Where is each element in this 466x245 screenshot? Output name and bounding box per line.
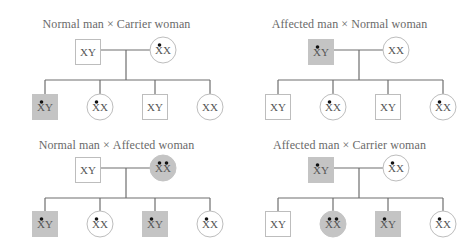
genotype-label: XY [380,218,396,230]
father-male: XY [309,158,334,183]
child-3-male: XY [376,212,401,237]
genotype-label: XX [388,44,404,56]
genotype-label: XY [313,164,329,176]
child-1-male: XY [33,95,58,120]
genotype-label: XY [270,218,286,230]
father-male: XY [76,158,101,183]
pedigree-panel-affected-man-x-normal-woman: Affected man×Normal woman XYXXXYXXXYXX [233,0,466,122]
genotype-label: XX [325,101,341,113]
genotype-label: XX [435,101,451,113]
pedigree-panel-normal-man-x-carrier-woman: Normal man×Carrier woman XYXXXYXXXYXX [0,0,233,122]
mother-female: XX [383,37,409,63]
child-1-male: XY [33,212,58,237]
child-3-male: XY [376,95,401,120]
genotype-label: XY [313,46,329,58]
child-2-female: XX [320,94,346,120]
genotype-label: XX [155,44,171,56]
child-4-female: XX [430,211,456,237]
genotype-label: XY [147,101,163,113]
genotype-label: XX [202,101,218,113]
pedigree-panel-normal-man-x-affected-woman: Normal man×Affected woman XYXXXYXXXYXX [0,122,233,244]
pedigree-panel-affected-man-x-carrier-woman: Affected man×Carrier woman XYXXXYXXXYXX [233,122,466,244]
pedigree-chart: XYXXXYXXXYXX [233,0,466,122]
genotype-label: XY [80,46,96,58]
mother-female: XX [383,155,409,181]
pedigree-chart: XYXXXYXXXYXX [233,122,466,245]
genotype-label: XY [270,101,286,113]
genotype-label: XY [37,218,53,230]
genotype-label: XY [80,164,96,176]
genotype-label: XX [202,218,218,230]
child-1-male: XY [266,212,291,237]
child-3-male: XY [143,212,168,237]
child-4-female: XX [197,94,223,120]
genotype-label: XX [92,218,108,230]
child-2-female: XX [87,94,113,120]
genotype-label: XX [92,101,108,113]
genotype-label: XX [388,162,404,174]
pedigree-chart: XYXXXYXXXYXX [0,0,233,122]
child-4-female: XX [197,211,223,237]
child-3-male: XY [143,95,168,120]
genotype-label: XY [147,218,163,230]
child-4-female: XX [430,94,456,120]
genotype-label: XX [435,218,451,230]
child-2-female: XX [320,211,346,237]
pedigree-chart: XYXXXYXXXYXX [0,122,233,245]
mother-female: XX [150,155,176,181]
child-1-male: XY [266,95,291,120]
genotype-label: XY [380,101,396,113]
father-male: XY [76,40,101,65]
child-2-female: XX [87,211,113,237]
genotype-label: XX [325,218,341,230]
genotype-label: XX [155,162,171,174]
father-male: XY [309,40,334,65]
genotype-label: XY [37,101,53,113]
mother-female: XX [150,37,176,63]
